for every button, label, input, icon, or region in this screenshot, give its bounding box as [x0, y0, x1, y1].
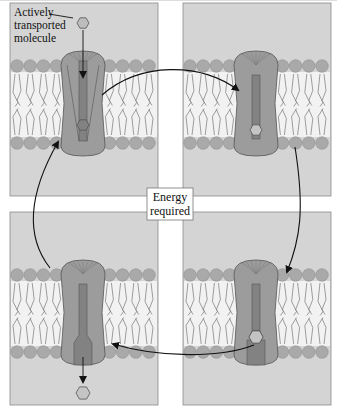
lipid-head — [210, 137, 223, 150]
lipid-head — [303, 137, 316, 150]
transport-protein — [61, 260, 105, 365]
lipid-head — [24, 346, 37, 359]
lipid-head — [184, 346, 197, 359]
lipid-head — [289, 60, 302, 73]
lipid-head — [143, 269, 156, 282]
lipid-head — [143, 60, 156, 73]
lipid-head — [184, 137, 197, 150]
lipid-head — [210, 346, 223, 359]
molecule-hexagon-icon — [77, 120, 89, 130]
lipid-head — [130, 346, 143, 359]
lipid-head — [303, 60, 316, 73]
energy-line-1: Energy — [153, 190, 187, 204]
transport-protein — [234, 51, 278, 156]
lipid-head — [316, 60, 329, 73]
lipid-head — [37, 269, 50, 282]
lipid-head — [24, 269, 37, 282]
lipid-head — [116, 137, 129, 150]
lipid-head — [210, 269, 223, 282]
lipid-head — [316, 346, 329, 359]
energy-line-2: required — [150, 204, 190, 218]
lipid-head — [24, 60, 37, 73]
energy-required-box: Energy required — [147, 188, 193, 220]
molecule-hexagon-icon — [249, 331, 263, 343]
panel-top-right — [183, 3, 331, 196]
lipid-head — [210, 60, 223, 73]
lipid-head — [197, 60, 210, 73]
label-line-3: molecule — [14, 32, 56, 44]
lipid-head — [11, 137, 24, 150]
lipid-head — [289, 269, 302, 282]
lipid-head — [197, 346, 210, 359]
lipid-head — [24, 137, 37, 150]
protein-channel-lower — [247, 340, 265, 365]
lipid-head — [37, 137, 50, 150]
lipid-head — [37, 346, 50, 359]
lipid-head — [143, 137, 156, 150]
lipid-head — [303, 346, 316, 359]
molecule-hexagon-icon — [77, 18, 89, 28]
lipid-head — [116, 60, 129, 73]
panel-bottom-left — [10, 212, 158, 405]
lipid-head — [197, 269, 210, 282]
lipid-head — [316, 269, 329, 282]
lipid-head — [316, 137, 329, 150]
lipid-head — [130, 137, 143, 150]
lipid-head — [197, 137, 210, 150]
lipid-head — [116, 269, 129, 282]
label-line-1: Actively — [14, 6, 54, 19]
panel-bottom-right — [183, 212, 331, 405]
lipid-head — [303, 269, 316, 282]
lipid-head — [11, 346, 24, 359]
lipid-head — [184, 269, 197, 282]
lipid-head — [11, 60, 24, 73]
label-line-2: transported — [14, 19, 66, 32]
molecule-hexagon-icon — [250, 125, 262, 135]
lipid-head — [11, 269, 24, 282]
molecule-hexagon-icon — [76, 387, 90, 399]
lipid-head — [130, 269, 143, 282]
lipid-head — [37, 60, 50, 73]
lipid-head — [289, 346, 302, 359]
active-transport-diagram: Actively transported molecule Energy req… — [0, 0, 337, 415]
lipid-head — [130, 60, 143, 73]
